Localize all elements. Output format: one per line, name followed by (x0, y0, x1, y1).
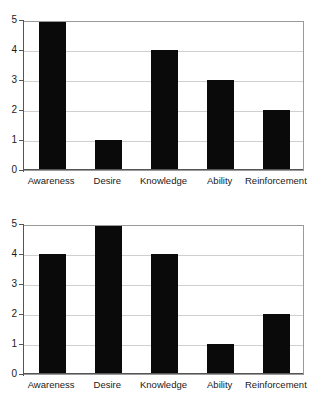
bar (263, 110, 290, 170)
bar (151, 254, 178, 374)
y-axis-tick-label: 3 (11, 279, 17, 289)
y-axis-tick-label: 0 (11, 369, 17, 379)
x-axis-label: Knowledge (140, 378, 187, 392)
bar (39, 254, 66, 374)
y-axis-tick-mark (19, 284, 23, 285)
bar-series-top (24, 22, 303, 170)
x-axis-baseline (24, 373, 303, 374)
x-axis-label: Awareness (28, 378, 75, 392)
y-axis-tick-label: 1 (11, 135, 17, 145)
x-axis-label: Reinforcement (245, 378, 307, 392)
bar (207, 344, 234, 374)
x-axis-label: Reinforcement (245, 174, 307, 188)
y-axis-tick-mark (19, 50, 23, 51)
y-axis-line (23, 20, 24, 172)
y-axis-tick-label: 2 (11, 105, 17, 115)
bar (95, 140, 122, 170)
bar-series-bottom (24, 226, 303, 374)
plot-area-bottom (23, 225, 304, 375)
y-axis-tick-mark (19, 20, 23, 21)
y-axis-tick-label: 5 (11, 15, 17, 25)
bar-chart-top: 012345 AwarenessDesireKnowledgeAbilityRe… (0, 4, 329, 201)
y-axis-tick-mark (19, 170, 23, 171)
bar (151, 50, 178, 170)
x-axis-label: Knowledge (140, 174, 187, 188)
y-axis-tick-mark (19, 374, 23, 375)
y-axis-tick-label: 2 (11, 309, 17, 319)
bar-chart-bottom: 012345 AwarenessDesireKnowledgeAbilityRe… (0, 208, 329, 405)
bar (263, 314, 290, 374)
x-axis-labels-top: AwarenessDesireKnowledgeAbilityReinforce… (23, 174, 304, 190)
y-axis-tick-mark (19, 110, 23, 111)
y-axis-line (23, 224, 24, 376)
x-axis-label: Desire (94, 174, 121, 188)
bar (95, 225, 122, 374)
y-axis-tick-mark (19, 80, 23, 81)
y-axis-tick-label: 1 (11, 339, 17, 349)
chart-page: 012345 AwarenessDesireKnowledgeAbilityRe… (0, 0, 329, 409)
y-axis-tick-label: 4 (11, 45, 17, 55)
y-axis-tick-label: 0 (11, 165, 17, 175)
bar (39, 21, 66, 170)
y-axis-tick-mark (19, 254, 23, 255)
y-axis-tick-label: 4 (11, 249, 17, 259)
y-axis-tick-mark (19, 224, 23, 225)
x-axis-label: Desire (94, 378, 121, 392)
plot-wrapper-top: 012345 (23, 21, 304, 171)
plot-wrapper-bottom: 012345 (23, 225, 304, 375)
x-axis-labels-bottom: AwarenessDesireKnowledgeAbilityReinforce… (23, 378, 304, 394)
y-axis-tick-mark (19, 314, 23, 315)
y-axis-tick-mark (19, 140, 23, 141)
y-axis-tick-mark (19, 344, 23, 345)
y-axis-tick-label: 5 (11, 219, 17, 229)
x-axis-label: Ability (207, 378, 232, 392)
x-axis-baseline (24, 169, 303, 170)
plot-area-top (23, 21, 304, 171)
x-axis-label: Awareness (28, 174, 75, 188)
y-axis-tick-label: 3 (11, 75, 17, 85)
x-axis-label: Ability (207, 174, 232, 188)
bar (207, 80, 234, 170)
